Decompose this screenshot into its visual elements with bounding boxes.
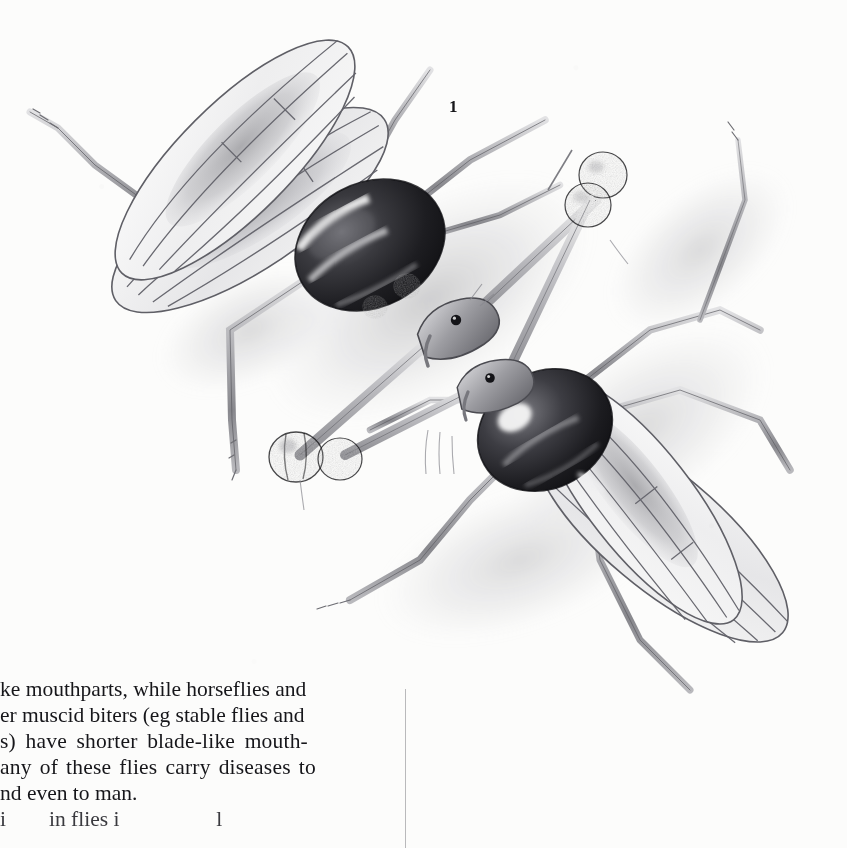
text-line: s) have shorter blade-like mouth- bbox=[0, 728, 400, 754]
text-line: nd even to man. bbox=[0, 780, 400, 806]
figure-illustration bbox=[0, 0, 847, 700]
text-line: any of these flies carry diseases to bbox=[0, 754, 400, 780]
text-line: ke mouthparts, while horseflies and bbox=[0, 676, 400, 702]
text-line: er muscid biters (eg stable flies and bbox=[0, 702, 400, 728]
body-text-column-left: ke mouthparts, while horseflies and er m… bbox=[0, 676, 400, 848]
column-rule bbox=[405, 689, 406, 848]
figure-number-label: 1 bbox=[449, 97, 458, 117]
eye-knob-upper-right2 bbox=[565, 183, 611, 227]
eye-knob-left bbox=[269, 432, 323, 482]
book-page: 1 ke mouthparts, while horseflies and er… bbox=[0, 0, 847, 848]
text-line-partial: i in flies i l bbox=[0, 806, 400, 832]
eye-knob-lower-left2 bbox=[318, 438, 362, 480]
